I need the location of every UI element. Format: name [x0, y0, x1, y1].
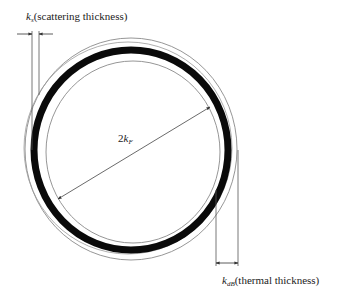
kspace-diagram: ks(scattering thickness) kdB(thermal thi… [0, 0, 338, 294]
thermal-thickness-label: kdB(thermal thickness) [222, 274, 320, 288]
diameter-arrow [58, 107, 210, 199]
outer-thin-circle [25, 38, 237, 260]
fermi-surface-ring [34, 50, 228, 250]
inner-thin-circle [46, 61, 220, 243]
fermi-diameter-label: 2kF [118, 132, 133, 146]
scattering-thickness-label: ks(scattering thickness) [26, 10, 128, 24]
